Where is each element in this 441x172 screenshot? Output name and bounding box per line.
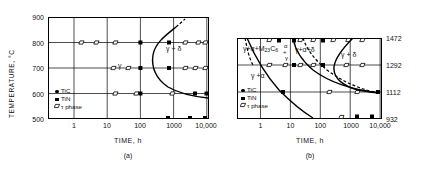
x-tick-b-1000: 1000 [343, 122, 359, 129]
annotation-b-gamma-delta: γ + δ [341, 51, 356, 58]
legend-item-tau: τ phase [53, 103, 82, 111]
chart-panel-a: TEMPERATURE, °C 900 800 700 600 500 [0, 0, 218, 172]
annotation-b-gamma-alpha: γ +α [251, 72, 265, 79]
y-tick-a-800: 800 [14, 39, 44, 46]
filled-circle-icon [239, 86, 247, 94]
open-slash-icon [53, 103, 61, 111]
open-slash-icon [239, 102, 247, 110]
annotation-a-gamma-delta: γ + δ [166, 45, 181, 52]
x-tick-a-10000: 10,000 [195, 122, 216, 129]
legend-b: TiC TiN τ phase [239, 86, 268, 111]
legend-item-tin: TiN [239, 94, 268, 102]
x-tick-b-10000: 10,000 [369, 122, 390, 129]
filled-square-icon [239, 94, 247, 102]
legend-label-tic: TiC [247, 86, 256, 94]
y-tick-a-600: 600 [14, 90, 44, 97]
x-tick-a-1: 1 [72, 122, 76, 129]
legend-item-tin: TiN [53, 95, 82, 103]
x-tick-b-100: 100 [314, 122, 326, 129]
y-tick-b-1472: 1472 [386, 35, 416, 42]
y-tick-a-700: 700 [14, 65, 44, 72]
x-tick-b-1: 1 [259, 122, 263, 129]
x-axis-label-b: TIME, h [296, 137, 324, 144]
plot-area-b: γ+α+M23C6 α + γ γ+α+δ γ + δ γ +α TiC TiN [237, 38, 382, 119]
annotation-b-gamma-alpha-delta: γ+α+δ [295, 46, 315, 53]
annotation-b-m23c6: γ+α+M23C6 [243, 45, 278, 53]
legend-label-tin: TiN [61, 95, 70, 103]
figure-container: TEMPERATURE, °C 900 800 700 600 500 [0, 0, 441, 172]
x-tick-a-1000: 1000 [166, 122, 182, 129]
legend-item-tic: TiC [53, 87, 82, 95]
caption-b: (b) [306, 152, 315, 159]
y-tick-b-1112: 1112 [386, 89, 416, 96]
annotation-b-gamma: γ [285, 55, 288, 61]
y-tick-a-900: 900 [14, 14, 44, 21]
caption-a: (a) [124, 152, 133, 159]
x-tick-a-10: 10 [103, 122, 111, 129]
legend-label-tic: TiC [61, 87, 70, 95]
filled-circle-icon [53, 87, 61, 95]
x-tick-b-10: 10 [286, 122, 294, 129]
x-axis-label-a: TIME, h [114, 137, 142, 144]
annotation-a-gamma: γ [118, 62, 122, 69]
y-tick-b-1292: 1292 [386, 62, 416, 69]
chart-panel-b: TEMPERATURE, °F [218, 0, 441, 172]
legend-a: TiC TiN τ phase [53, 87, 82, 112]
y-axis-label-a: TEMPERATURE, °C [8, 49, 15, 118]
x-tick-a-100: 100 [134, 122, 146, 129]
legend-item-tic: TiC [239, 86, 268, 94]
legend-label-tin: TiN [247, 94, 256, 102]
filled-square-icon [53, 95, 61, 103]
legend-item-tau: τ phase [239, 102, 268, 110]
legend-label-tau: τ phase [61, 103, 82, 111]
legend-label-tau: τ phase [247, 102, 268, 110]
plot-area-a: γ γ + δ TiC TiN τ phase [48, 17, 209, 119]
y-tick-a-500: 500 [14, 116, 44, 123]
